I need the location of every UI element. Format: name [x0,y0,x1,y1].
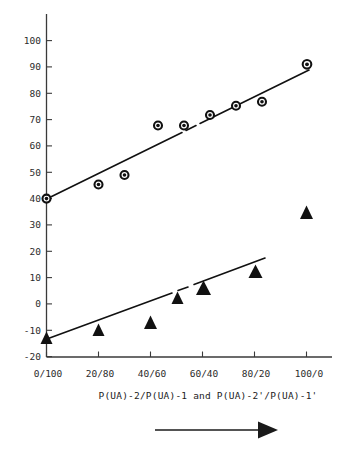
x-axis-ticks [47,352,307,358]
x-axis-tick-labels: 0/100 20/80 40/60 60/40 80/20 100/0 [34,368,324,379]
y-tick-label-60: 60 [30,140,42,151]
x-tick-label-40: 40/60 [138,368,167,379]
data-point-upper-5 [180,122,188,130]
data-point-upper-2 [95,181,103,189]
y-tick-label-50: 50 [30,167,42,178]
data-point-lower-3 [144,316,157,330]
data-point-lower-6 [249,265,263,279]
y-tick-label-100: 100 [24,35,41,46]
data-point-upper-1 [43,195,51,203]
upper-fit-segment-left [46,133,183,200]
lower-series-markers [41,206,314,345]
direction-arrow-head [258,422,278,439]
direction-arrow [155,422,278,439]
y-axis-tick-labels: 100 90 80 70 60 50 40 30 20 10 0 -10 -20 [24,35,41,362]
x-tick-label-60: 60/40 [190,368,219,379]
upper-series-fit-line [46,70,310,200]
x-tick-label-100: 100/0 [295,368,324,379]
data-point-upper-6 [206,111,214,119]
y-tick-label-90: 90 [30,61,42,72]
x-tick-label-20: 20/80 [86,368,115,379]
y-tick-label-40: 40 [30,193,42,204]
data-point-upper-3 [121,171,129,179]
x-axis-caption: P(UA)-2/P(UA)-1 and P(UA)-2'/P(UA)-1' [98,390,317,401]
y-tick-label-neg20: -20 [24,351,41,362]
y-tick-label-30: 30 [30,219,42,230]
upper-fit-segment-right [200,70,309,124]
data-point-lower-outlier [300,206,313,220]
x-tick-label-80: 80/20 [242,368,271,379]
y-tick-label-70: 70 [30,114,42,125]
lower-fit-segment-left [46,293,173,340]
y-tick-label-80: 80 [30,88,42,99]
scatter-plot: 100 90 80 70 60 50 40 30 20 10 0 -10 -20… [0,0,349,451]
axes-group [47,14,333,357]
chart-figure: 100 90 80 70 60 50 40 30 20 10 0 -10 -20… [0,0,349,451]
data-point-lower-2 [93,324,105,337]
y-tick-label-10: 10 [30,272,42,283]
lower-fit-segment-dash [178,287,188,291]
data-point-upper-9 [303,60,312,69]
y-tick-label-neg10: -10 [24,325,41,336]
data-point-upper-8 [258,98,266,106]
x-tick-label-0: 0/100 [34,368,63,379]
y-tick-label-0: 0 [35,298,41,309]
data-point-lower-4 [172,292,184,305]
y-tick-label-20: 20 [30,246,42,257]
data-point-upper-7 [232,102,240,110]
data-point-upper-4 [154,122,162,130]
